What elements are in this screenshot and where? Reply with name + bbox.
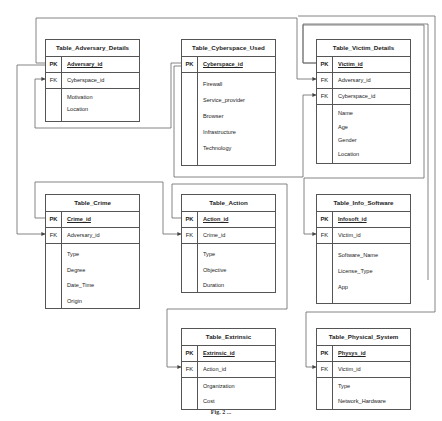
fk-row: FK Adversary_id (317, 73, 410, 89)
attribute-list: Organization Cost (182, 378, 275, 409)
fk-row: FK Victim_id (317, 228, 410, 244)
fk-field: Adversary_id (333, 73, 371, 88)
pk-field: Infosoft_id (333, 212, 367, 227)
attribute: Objective (203, 263, 226, 279)
pk-label: PK (182, 57, 198, 72)
attribute: Date_Time (67, 278, 94, 294)
table-title: Table_Adversary_Details (46, 40, 139, 57)
fk-field: Victim_id (333, 228, 361, 243)
attribute: Technology (203, 140, 245, 156)
pk-label: PK (317, 346, 333, 361)
attribute: Age (338, 121, 359, 135)
fk-field: Action_id (198, 362, 226, 377)
pk-label: PK (46, 57, 62, 72)
attribute: License_Type (338, 263, 378, 279)
fk-field: Crime_id (198, 228, 225, 243)
attribute: Degree (67, 263, 94, 279)
fk-label: FK (317, 73, 333, 88)
attribute: Service_provider (203, 92, 245, 108)
attribute-list: Type Objective Duration (182, 244, 275, 292)
table-physical-system[interactable]: Table_Physical_System PK Physys_id FK Vi… (316, 328, 411, 410)
fk-field: Adversary_id (62, 228, 100, 243)
pk-row: PK Action_id (182, 212, 275, 228)
pk-row: PK Adversary_id (46, 57, 139, 73)
figure-caption: Fig. 2 ... (0, 409, 442, 415)
attribute: Type (203, 247, 226, 263)
attribute: Browser (203, 108, 245, 124)
fk-label: FK (46, 228, 62, 243)
pk-field: Cyberspace_id (198, 57, 243, 72)
attribute-list: Type Network_Hardware (317, 378, 410, 409)
fk-field: Cyberspace_id (62, 73, 104, 88)
table-title: Table_Action (182, 195, 275, 212)
fk-label: FK (46, 73, 62, 88)
attribute: Firewall (203, 76, 245, 92)
attribute: Motivation (67, 91, 93, 103)
table-title: Table_Victim_Details (317, 40, 410, 57)
pk-row: PK Extrinsic_id (182, 346, 275, 362)
pk-label: PK (182, 346, 198, 361)
attribute: Gender (338, 134, 359, 148)
fk-label: FK (317, 89, 333, 104)
fk-label: FK (317, 228, 333, 243)
attribute: Network_Hardware (338, 394, 386, 409)
attribute: Duration (203, 278, 226, 294)
attribute: Name (338, 107, 359, 121)
pk-label: PK (182, 212, 198, 227)
pk-label: PK (317, 57, 333, 72)
attribute-list: Software_Name License_Type App (317, 244, 410, 303)
table-title: Table_Extrinsic (182, 329, 275, 346)
pk-row: PK Victim_id (317, 57, 410, 73)
fk-row: FK Cyberspace_id (46, 73, 139, 89)
attribute-list: Type Degree Date_Time Origin (46, 244, 139, 308)
attribute: Type (338, 379, 386, 394)
pk-label: PK (46, 212, 62, 227)
fk-field: Victim_id (333, 362, 361, 377)
pk-field: Adversary_id (62, 57, 102, 72)
attribute-list: Firewall Service_provider Browser Infras… (182, 73, 275, 165)
table-action[interactable]: Table_Action PK Action_id FK Crime_id Ty… (181, 194, 276, 293)
fk-row: FK Victim_id (317, 362, 410, 378)
pk-field: Extrinsic_id (198, 346, 235, 361)
pk-field: Victim_id (333, 57, 363, 72)
table-title: Table_Cyberspace_Used (182, 40, 275, 57)
table-victim-details[interactable]: Table_Victim_Details PK Victim_id FK Adv… (316, 39, 411, 164)
fk-row: FK Action_id (182, 362, 275, 378)
fk-label: FK (182, 362, 198, 377)
table-adversary-details[interactable]: Table_Adversary_Details PK Adversary_id … (45, 39, 140, 122)
pk-row: PK Cyberspace_id (182, 57, 275, 73)
fk-row: FK Adversary_id (46, 228, 139, 244)
pk-row: PK Infosoft_id (317, 212, 410, 228)
fk-row: FK Cyberspace_id (317, 89, 410, 105)
table-crime[interactable]: Table_Crime PK Crime_id FK Adversary_id … (45, 194, 140, 309)
table-cyberspace-used[interactable]: Table_Cyberspace_Used PK Cyberspace_id F… (181, 39, 276, 166)
fk-label: FK (317, 362, 333, 377)
attribute: Location (338, 148, 359, 162)
fk-label: FK (182, 228, 198, 243)
pk-label: PK (317, 212, 333, 227)
pk-field: Crime_id (62, 212, 91, 227)
pk-field: Action_id (198, 212, 228, 227)
attribute: Location (67, 103, 93, 115)
attribute-list: Name Age Gender Location (317, 105, 410, 163)
table-info-software[interactable]: Table_Info_Software PK Infosoft_id FK Vi… (316, 194, 411, 304)
attribute: Infrastructure (203, 124, 245, 140)
pk-field: Physys_id (333, 346, 366, 361)
attribute: Cost (203, 394, 235, 409)
attribute: Type (67, 247, 94, 263)
table-title: Table_Info_Software (317, 195, 410, 212)
pk-row: PK Crime_id (46, 212, 139, 228)
table-title: Table_Crime (46, 195, 139, 212)
attribute: App (338, 279, 378, 295)
attribute: Software_Name (338, 247, 378, 263)
fk-row: FK Crime_id (182, 228, 275, 244)
attribute-list: Motivation Location (46, 89, 139, 121)
fk-field: Cyberspace_id (333, 89, 375, 104)
table-title: Table_Physical_System (317, 329, 410, 346)
attribute: Organization (203, 379, 235, 394)
table-extrinsic[interactable]: Table_Extrinsic PK Extrinsic_id FK Actio… (181, 328, 276, 410)
pk-row: PK Physys_id (317, 346, 410, 362)
attribute: Origin (67, 294, 94, 310)
link-adversary-crime (17, 65, 45, 234)
